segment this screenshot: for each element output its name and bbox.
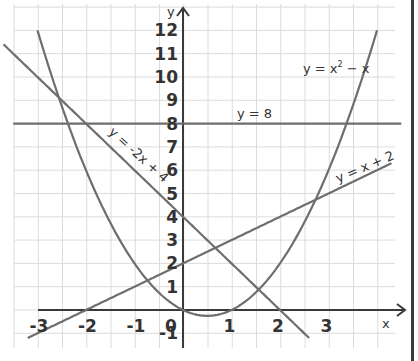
x-tick-label: -3	[30, 316, 49, 336]
y-tick-label: 5	[166, 184, 178, 204]
y-tick-label: -1	[159, 323, 178, 343]
y-tick-label: 7	[166, 137, 178, 157]
horizontal-line-label: y = 8	[237, 106, 272, 121]
x-axis-label: x	[382, 316, 390, 331]
y-tick-label: 4	[166, 207, 178, 227]
x-tick-label: -2	[78, 316, 97, 336]
x-tick-label: -1	[127, 316, 146, 336]
parabola-label: y = x2 − x	[303, 60, 370, 76]
y-tick-label: 11	[154, 44, 178, 64]
y-tick-label: 8	[166, 114, 178, 134]
y-tick-label: 1	[166, 277, 178, 297]
curve--2x-4	[4, 44, 310, 338]
parabola-label-text: y = x	[303, 61, 338, 76]
x-tick-label: 2	[272, 316, 284, 336]
tick-labels: -3-2-10123-1123456789101112	[30, 20, 333, 343]
pos-slope-line-label: y = x + 2	[333, 148, 396, 186]
y-tick-label: 2	[166, 253, 178, 273]
curve-x-2	[28, 163, 392, 338]
y-tick-label: 10	[154, 67, 178, 87]
y-tick-label: 12	[154, 20, 178, 40]
y-tick-label: 3	[166, 230, 178, 250]
x-tick-label: 3	[321, 316, 333, 336]
function-graph: -3-2-10123-1123456789101112 x y y = x2 −…	[0, 0, 418, 361]
neg-slope-line-label: y = -2x + 4	[106, 124, 172, 185]
frame-border	[411, 0, 414, 361]
y-tick-label: 9	[166, 90, 178, 110]
y-axis-label: y	[167, 4, 175, 19]
x-tick-label: 1	[224, 316, 236, 336]
